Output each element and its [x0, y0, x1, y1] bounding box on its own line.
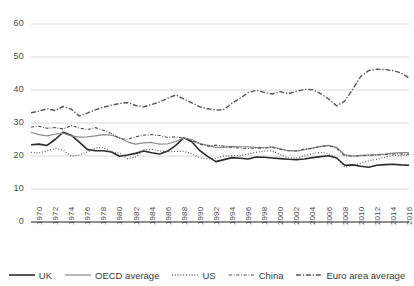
chart-legend: UKOECD averageUSChinaEuro area average — [0, 264, 414, 286]
y-tick-label: 20 — [2, 150, 24, 160]
y-tick-label: 60 — [2, 18, 24, 28]
legend-item-china[interactable]: China — [229, 270, 284, 281]
legend-label: US — [202, 270, 215, 281]
legend-label: UK — [39, 270, 52, 281]
line-chart: 6050403020100 19701972197419761978198019… — [0, 0, 414, 286]
x-tick-label: 2002 — [292, 207, 301, 225]
legend-label: OECD average — [95, 270, 159, 281]
x-tick-label: 2014 — [389, 207, 398, 225]
series-line-euro-area-average — [31, 69, 409, 116]
x-tick-label: 1990 — [196, 207, 205, 225]
x-tick-label: 1984 — [148, 207, 157, 225]
legend-label: Euro area average — [326, 270, 405, 281]
gridlines — [31, 24, 409, 222]
legend-swatch-icon — [296, 271, 322, 279]
x-tick-label: 1974 — [67, 207, 76, 225]
y-tick-label: 30 — [2, 117, 24, 127]
x-tick-label: 2000 — [276, 207, 285, 225]
legend-item-uk[interactable]: UK — [9, 270, 52, 281]
x-tick-label: 1980 — [115, 207, 124, 225]
legend-swatch-icon — [9, 271, 35, 279]
x-tick-label: 1972 — [51, 207, 60, 225]
x-tick-label: 2010 — [357, 207, 366, 225]
x-tick-label: 1994 — [228, 207, 237, 225]
x-tick-label: 2008 — [341, 207, 350, 225]
legend-swatch-icon — [172, 271, 198, 279]
series-line-china — [31, 126, 409, 157]
x-tick-label: 2004 — [308, 207, 317, 225]
legend-label: China — [259, 270, 284, 281]
y-tick-label: 50 — [2, 51, 24, 61]
x-tick-label: 1992 — [212, 207, 221, 225]
chart-plot-area — [0, 0, 414, 286]
legend-item-euro-area-average[interactable]: Euro area average — [296, 270, 405, 281]
x-tick-label: 1998 — [260, 207, 269, 225]
series-line-oecd-average — [31, 132, 409, 156]
x-tick-label: 1982 — [132, 207, 141, 225]
x-tick-label: 1976 — [83, 207, 92, 225]
y-tick-label: 0 — [2, 216, 24, 226]
x-tick-label: 2006 — [325, 207, 334, 225]
legend-item-oecd-average[interactable]: OECD average — [65, 270, 159, 281]
x-tick-label: 1996 — [244, 207, 253, 225]
x-tick-label: 1970 — [35, 207, 44, 225]
y-tick-label: 40 — [2, 84, 24, 94]
series-lines — [31, 69, 409, 167]
x-tick-label: 2012 — [373, 207, 382, 225]
legend-swatch-icon — [65, 271, 91, 279]
x-tick-label: 1986 — [164, 207, 173, 225]
x-tick-label: 1988 — [180, 207, 189, 225]
y-tick-label: 10 — [2, 183, 24, 193]
x-tick-label: 2016 — [405, 207, 414, 225]
legend-item-us[interactable]: US — [172, 270, 215, 281]
legend-swatch-icon — [229, 271, 255, 279]
series-line-uk — [31, 132, 409, 167]
x-tick-label: 1978 — [99, 207, 108, 225]
